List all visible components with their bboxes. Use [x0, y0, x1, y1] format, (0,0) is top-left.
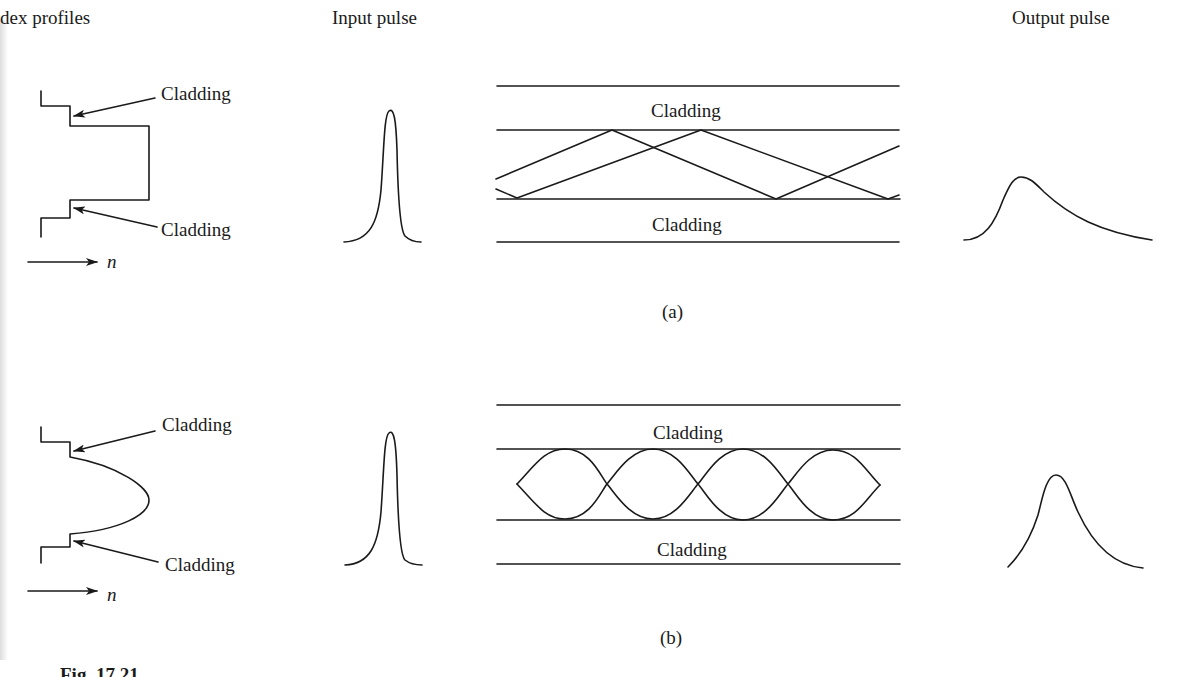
step-index-fiber	[496, 86, 900, 242]
graded-index-fiber	[497, 405, 900, 564]
input-pulse-b	[345, 432, 422, 565]
step-index-profile	[41, 91, 149, 237]
fiber-diagram	[0, 0, 1183, 677]
profile-b-bottom-arrow-icon	[74, 541, 158, 562]
profile-a-bottom-arrow-icon	[74, 208, 157, 227]
graded-index-profile	[41, 427, 149, 563]
output-pulse-b	[1008, 475, 1143, 568]
profile-a-top-arrow-icon	[74, 98, 155, 116]
input-pulse-a	[344, 110, 421, 242]
profile-b-top-arrow-icon	[74, 431, 155, 451]
output-pulse-a	[964, 177, 1152, 240]
